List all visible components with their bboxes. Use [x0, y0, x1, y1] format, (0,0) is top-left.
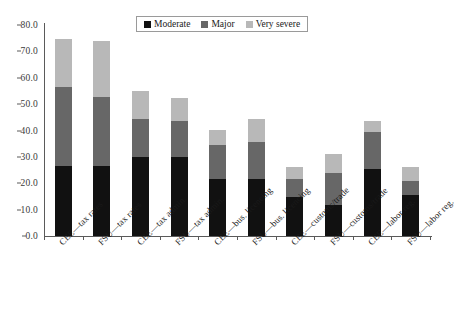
x-axis-tick-mark — [353, 236, 354, 240]
legend-item-moderate: Moderate — [144, 19, 190, 29]
very-severe-swatch-icon — [246, 21, 253, 28]
chart-legend: Moderate Major Very severe — [136, 16, 308, 32]
bar-group — [248, 119, 265, 236]
bar-group — [364, 121, 381, 236]
legend-item-very-severe: Very severe — [246, 19, 301, 29]
y-axis-tick-mark — [17, 156, 21, 157]
x-axis-tick-mark — [391, 236, 392, 240]
bar-segment-moderate — [55, 166, 72, 236]
y-axis-tick-label: 60.0 — [21, 73, 44, 83]
y-axis-tick-label: 20.0 — [21, 178, 44, 188]
y-axis-tick-label: 30.0 — [21, 152, 44, 162]
x-axis-tick-mark — [44, 236, 45, 240]
bar-segment-major — [132, 119, 149, 157]
y-axis-tick-label: 10.0 — [21, 205, 44, 215]
bar-segment-moderate — [132, 157, 149, 236]
bar-segment-major — [209, 145, 226, 178]
x-axis-tick-mark — [430, 236, 431, 240]
legend-label-very-severe: Very severe — [256, 19, 301, 29]
y-axis-tick-mark — [22, 236, 26, 237]
x-axis-tick-mark — [83, 236, 84, 240]
bar-segment-major — [402, 181, 419, 196]
bar-segment-very — [402, 167, 419, 180]
bar-segment-major — [55, 87, 72, 166]
y-axis-tick-label: 40.0 — [21, 126, 44, 136]
y-axis-tick-label: 70.0 — [21, 46, 44, 56]
legend-item-major: Major — [201, 19, 234, 29]
x-axis-tick-mark — [314, 236, 315, 240]
moderate-swatch-icon — [144, 21, 151, 28]
bar-segment-major — [248, 142, 265, 179]
bar-group — [55, 39, 72, 236]
y-axis-tick-mark — [17, 25, 21, 26]
bar-segment-very — [286, 167, 303, 179]
bar-segment-very — [171, 98, 188, 121]
legend-label-moderate: Moderate — [154, 19, 190, 29]
y-axis-tick-label: 50.0 — [21, 99, 44, 109]
bar-group — [209, 130, 226, 236]
x-axis-tick-mark — [237, 236, 238, 240]
y-axis-tick-label: 80.0 — [21, 20, 44, 30]
legend-label-major: Major — [211, 19, 234, 29]
y-axis-tick-mark — [17, 130, 21, 131]
bar-segment-major — [171, 121, 188, 157]
x-axis-labels: CEE—tax ratesFSU—tax ratesCEE—tax admin.… — [0, 240, 440, 317]
x-axis-tick-mark — [121, 236, 122, 240]
bar-segment-very — [248, 119, 265, 142]
bar-segment-major — [364, 132, 381, 169]
bar-segment-very — [364, 121, 381, 132]
x-axis-tick-mark — [160, 236, 161, 240]
bar-segment-very — [132, 91, 149, 119]
y-axis-tick-mark — [17, 104, 21, 105]
bar-segment-very — [55, 39, 72, 87]
bar-segment-very — [209, 130, 226, 145]
y-axis-tick-mark — [17, 209, 21, 210]
bar-segment-very — [93, 41, 110, 96]
bar-segment-major — [93, 97, 110, 167]
x-axis-tick-mark — [276, 236, 277, 240]
major-swatch-icon — [201, 21, 208, 28]
y-axis-tick-mark — [17, 183, 21, 184]
y-axis-tick-mark — [17, 77, 21, 78]
y-axis-tick-mark — [17, 51, 21, 52]
bar-segment-very — [325, 154, 342, 172]
x-axis-tick-mark — [198, 236, 199, 240]
